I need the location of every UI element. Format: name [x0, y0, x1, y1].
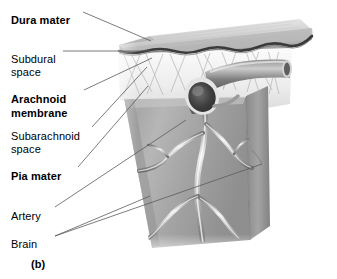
figure-caption: (b)	[31, 258, 45, 270]
label-subdural-space: Subdural	[11, 53, 56, 66]
label-arachnoid-membrane-line2: membrane	[11, 107, 67, 120]
label-subarachnoid-space: Subarachnoid	[11, 130, 80, 143]
label-subdural-space-line2: space	[11, 66, 41, 79]
label-arachnoid-membrane: Arachnoid	[11, 93, 66, 106]
bottom-fade	[108, 200, 318, 262]
label-artery: Artery	[11, 210, 41, 223]
figure-container: Dura mater Subdural space Arachnoid memb…	[0, 0, 337, 279]
label-pia-mater: Pia mater	[11, 170, 61, 183]
label-subarachnoid-space-line2: space	[11, 143, 41, 156]
label-brain: Brain	[11, 238, 37, 251]
left-fade	[104, 40, 138, 260]
label-dura-mater: Dura mater	[11, 14, 70, 27]
